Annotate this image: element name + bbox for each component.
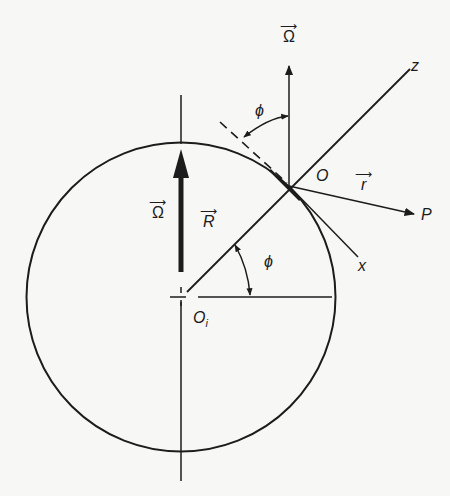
vector-arrow-icon: ⟶ <box>200 205 217 217</box>
tangent-segment-upper <box>270 170 300 200</box>
vector-arrow-icon: ⟶ <box>355 168 372 180</box>
phi-top-label: ϕ <box>255 103 264 119</box>
tangent-dashed-line <box>220 122 287 183</box>
omega-rotation-arrowhead <box>173 149 189 178</box>
point-O-label: O <box>316 168 328 184</box>
x-axis-label: x <box>358 258 366 274</box>
phi-arc-center <box>235 245 250 295</box>
vector-arrow-icon: ⟶ <box>280 20 297 32</box>
point-Oi-label: Oi <box>193 310 208 329</box>
omega-center-label: ⟶Ω <box>152 205 164 221</box>
r-vector-label: ⟶r <box>361 177 366 193</box>
x-axis-line <box>289 186 358 257</box>
z-axis-line <box>187 69 410 292</box>
diagram-canvas: ⟶Ω ⟶Ω ⟶R ⟶r O Oi P x z ϕ ϕ <box>0 0 450 496</box>
phi-center-label: ϕ <box>264 254 273 270</box>
point-P-label: P <box>421 207 432 223</box>
z-axis-label: z <box>411 58 419 74</box>
vector-arrow-icon: ⟶ <box>149 196 166 208</box>
R-vector-label: ⟶R <box>203 214 215 230</box>
omega-top-label: ⟶Ω <box>283 29 295 45</box>
diagram-svg <box>0 0 450 496</box>
phi-arc-top <box>244 116 288 137</box>
